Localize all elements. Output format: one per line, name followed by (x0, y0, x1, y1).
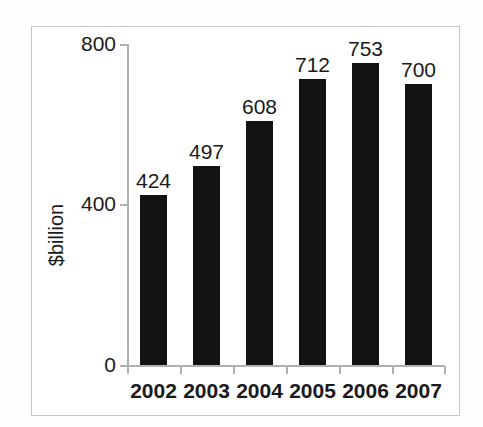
x-tick-6 (444, 366, 446, 374)
x-tick-2 (233, 366, 235, 374)
category-label-2006: 2006 (336, 379, 396, 403)
value-label-2006: 753 (336, 38, 396, 59)
y-tick-label-800: 800 (30, 33, 116, 54)
x-tick-3 (286, 366, 288, 374)
bar-2002 (140, 195, 167, 365)
y-tick-label-0-box: 0 (30, 354, 116, 375)
bar-chart-figure: 800 400 0 $billion 424200249720036082004… (0, 0, 483, 427)
x-tick-4 (339, 366, 341, 374)
value-label-2005: 712 (283, 54, 343, 75)
category-label-2007: 2007 (389, 379, 449, 403)
bar-2003 (193, 166, 220, 365)
bar-2005 (299, 79, 326, 365)
bar-2004 (246, 121, 273, 365)
y-tick-label-0: 0 (30, 354, 116, 375)
y-tick-label-800-box: 800 (30, 33, 116, 54)
y-tick-label-400-box: 400 (30, 193, 116, 214)
category-label-2002: 2002 (124, 379, 184, 403)
value-label-2004: 608 (230, 96, 290, 117)
category-label-2004: 2004 (230, 379, 290, 403)
y-axis-title: $billion (44, 180, 68, 290)
bar-2007 (405, 84, 432, 365)
x-tick-1 (180, 366, 182, 374)
value-label-2002: 424 (124, 170, 184, 191)
category-label-2005: 2005 (283, 379, 343, 403)
y-tick-400 (120, 204, 128, 206)
y-tick-800 (120, 44, 128, 46)
value-label-2003: 497 (177, 141, 237, 162)
value-label-2007: 700 (389, 59, 449, 80)
x-tick-0 (127, 366, 129, 374)
bar-2006 (352, 63, 379, 365)
y-tick-label-400: 400 (30, 193, 116, 214)
category-label-2003: 2003 (177, 379, 237, 403)
x-tick-5 (392, 366, 394, 374)
